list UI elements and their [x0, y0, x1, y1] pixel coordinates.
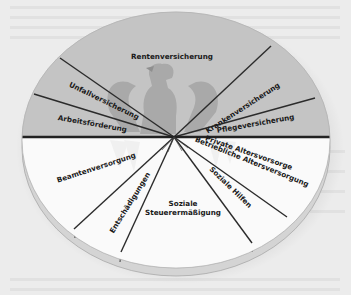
sozialbudget-disk: Rentenversicherung Krankenversicherung P…	[0, 0, 351, 295]
label-rentenversicherung: Rentenversicherung	[131, 52, 213, 61]
label-soziale: Soziale	[169, 199, 198, 208]
diagram-stage: Rentenversicherung Krankenversicherung P…	[0, 0, 351, 295]
label-steuerermaessigung: Steuerermäßigung	[145, 208, 221, 217]
